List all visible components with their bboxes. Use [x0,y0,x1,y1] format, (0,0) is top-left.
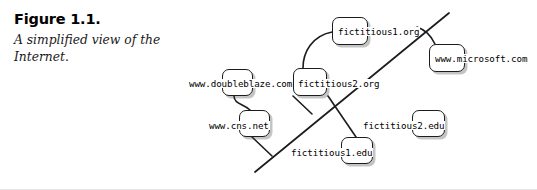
link-fictitious2org-to-backbone [293,96,312,114]
node-label-www-cns-net: www.cns.net [208,121,270,130]
link-cns-to-backbone [252,137,272,156]
node-label-www-microsoft-com: www.microsoft.com [434,54,528,63]
node-label-www-doubleblaze-com: www.doubleblaze.com [188,79,293,88]
node-label-fictitious2-org: fictitious2.org [297,79,380,88]
figure-container: Figure 1.1. A simplified view of the Int… [0,0,537,190]
link-doubleblaze-to-cns [234,96,250,110]
network-diagram: fictitious1.orgwww.microsoft.comwww.doub… [0,0,537,190]
node-label-fictitious1-edu: fictitious1.edu [290,148,373,157]
node-label-fictitious2-edu: fictitious2.edu [362,121,445,130]
diagram-lines-layer [0,0,537,190]
link-fictitious2org-to-fictitious1edu [328,96,356,137]
node-label-fictitious1-org: fictitious1.org [337,27,420,36]
link-fictitious2org-to-fictitious1org [303,32,332,68]
